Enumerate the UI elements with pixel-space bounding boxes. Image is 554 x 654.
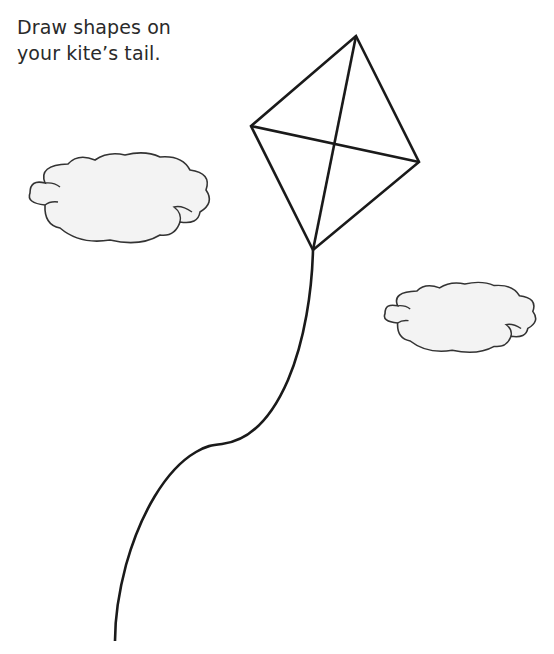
kite-tail-string xyxy=(115,250,313,641)
kite xyxy=(251,36,419,250)
kite-illustration xyxy=(0,0,554,654)
left-cloud xyxy=(29,153,209,243)
right-cloud xyxy=(384,282,535,352)
kite-cross-spar xyxy=(251,126,419,162)
